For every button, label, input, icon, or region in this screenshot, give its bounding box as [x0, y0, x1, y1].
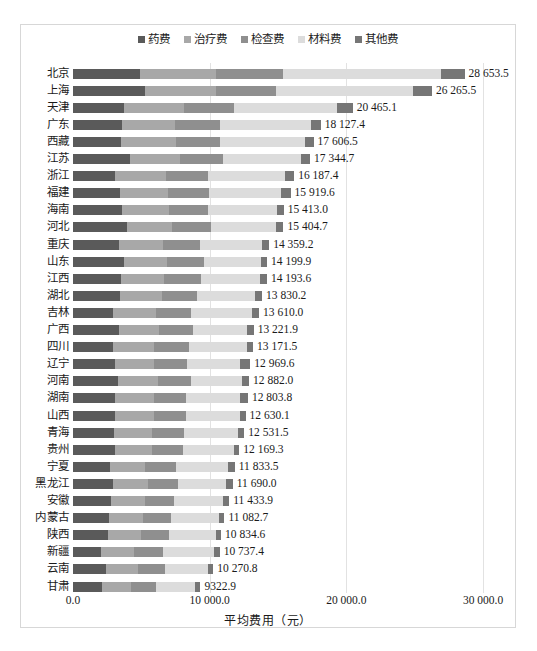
legend-item-1[interactable]: 药费 — [138, 34, 170, 46]
bar-value-label: 28 653.5 — [465, 68, 509, 80]
stacked-bar[interactable] — [73, 120, 321, 130]
bar-row[interactable]: 重庆14 359.2 — [21, 236, 515, 253]
bar-row[interactable]: 青海12 531.5 — [21, 424, 515, 441]
legend-item-5[interactable]: 其他费 — [355, 34, 398, 46]
stacked-bar[interactable] — [73, 496, 229, 506]
bar-row[interactable]: 湖南12 803.8 — [21, 390, 515, 407]
legend-item-4[interactable]: 材料费 — [298, 34, 341, 46]
bar-segment — [152, 428, 184, 438]
bar-segment — [305, 137, 314, 147]
bar-row[interactable]: 广西13 221.9 — [21, 322, 515, 339]
bar-segment — [73, 445, 115, 455]
stacked-bar[interactable] — [73, 222, 284, 232]
legend-item-2[interactable]: 治疗费 — [184, 34, 227, 46]
bar-row[interactable]: 内蒙古11 082.7 — [21, 510, 515, 527]
bar-segment — [141, 530, 169, 540]
stacked-bar[interactable] — [73, 325, 254, 335]
bar-segment — [115, 393, 154, 403]
stacked-bar[interactable] — [73, 291, 262, 301]
bar-row[interactable]: 四川13 171.5 — [21, 339, 515, 356]
stacked-bar[interactable] — [73, 257, 267, 267]
stacked-bar[interactable] — [73, 274, 267, 284]
bar-segment — [208, 205, 276, 215]
bar-row[interactable]: 山东14 199.9 — [21, 253, 515, 270]
category-label: 宁夏 — [21, 461, 69, 473]
bar-segment — [73, 530, 108, 540]
category-label: 江西 — [21, 273, 69, 285]
category-label: 贵州 — [21, 444, 69, 456]
bar-row[interactable]: 河南12 882.0 — [21, 373, 515, 390]
bar-segment — [143, 513, 172, 523]
bar-row[interactable]: 广东18 127.4 — [21, 116, 515, 133]
bar-row[interactable]: 西藏17 606.5 — [21, 133, 515, 150]
stacked-bar[interactable] — [73, 513, 224, 523]
stacked-bar[interactable] — [73, 530, 221, 540]
bar-row[interactable]: 福建15 919.6 — [21, 185, 515, 202]
bar-segment — [228, 462, 235, 472]
legend-swatch-icon — [298, 36, 305, 43]
bar-segment — [73, 325, 119, 335]
bar-segment — [156, 308, 192, 318]
bar-value-label: 17 606.5 — [314, 136, 358, 148]
stacked-bar[interactable] — [73, 188, 291, 198]
bar-segment — [166, 171, 208, 181]
stacked-bar[interactable] — [73, 376, 249, 386]
bar-row[interactable]: 贵州12 169.3 — [21, 441, 515, 458]
stacked-bar[interactable] — [73, 479, 233, 489]
stacked-bar[interactable] — [73, 308, 259, 318]
bar-row[interactable]: 陕西10 834.6 — [21, 527, 515, 544]
stacked-bar[interactable] — [73, 342, 253, 352]
bar-value-label: 13 221.9 — [254, 324, 298, 336]
stacked-bar[interactable] — [73, 547, 220, 557]
bar-row[interactable]: 山西12 630.1 — [21, 407, 515, 424]
bar-row[interactable]: 湖北13 830.2 — [21, 287, 515, 304]
bar-segment — [73, 564, 106, 574]
bar-segment — [73, 205, 122, 215]
bar-segment — [73, 222, 127, 232]
stacked-bar[interactable] — [73, 359, 250, 369]
stacked-bar[interactable] — [73, 428, 244, 438]
bar-row[interactable]: 江苏17 344.7 — [21, 151, 515, 168]
bar-segment — [73, 393, 115, 403]
stacked-bar[interactable] — [73, 103, 353, 113]
stacked-bar[interactable] — [73, 154, 310, 164]
bar-segment — [311, 120, 321, 130]
bar-row[interactable]: 浙江16 187.4 — [21, 168, 515, 185]
stacked-bar[interactable] — [73, 69, 465, 79]
bar-row[interactable]: 辽宁12 969.6 — [21, 356, 515, 373]
stacked-bar[interactable] — [73, 240, 269, 250]
bar-segment — [145, 86, 216, 96]
bar-value-label: 13 610.0 — [259, 307, 303, 319]
legend-item-3[interactable]: 检查费 — [241, 34, 284, 46]
bar-row[interactable]: 云南10 270.8 — [21, 561, 515, 578]
bar-row[interactable]: 海南15 413.0 — [21, 202, 515, 219]
bar-segment — [169, 530, 216, 540]
bar-row[interactable]: 上海26 265.5 — [21, 82, 515, 99]
bar-row[interactable]: 北京28 653.5 — [21, 65, 515, 82]
bar-row[interactable]: 甘肃9322.9 — [21, 578, 515, 595]
stacked-bar[interactable] — [73, 393, 248, 403]
stacked-bar[interactable] — [73, 86, 432, 96]
bar-segment — [285, 171, 294, 181]
bar-value-label: 11 833.5 — [235, 461, 279, 473]
stacked-bar[interactable] — [73, 205, 284, 215]
stacked-bar[interactable] — [73, 171, 294, 181]
bar-row[interactable]: 新疆10 737.4 — [21, 544, 515, 561]
category-label: 四川 — [21, 341, 69, 353]
stacked-bar[interactable] — [73, 462, 235, 472]
bar-row[interactable]: 宁夏11 833.5 — [21, 458, 515, 475]
bar-row[interactable]: 天津20 465.1 — [21, 99, 515, 116]
stacked-bar[interactable] — [73, 445, 239, 455]
bar-segment — [184, 103, 233, 113]
bar-row[interactable]: 江西14 193.6 — [21, 270, 515, 287]
stacked-bar[interactable] — [73, 411, 246, 421]
bar-row[interactable]: 黑龙江11 690.0 — [21, 475, 515, 492]
bar-row[interactable]: 吉林13 610.0 — [21, 304, 515, 321]
stacked-bar[interactable] — [73, 564, 213, 574]
legend-label: 材料费 — [308, 34, 341, 46]
bar-row[interactable]: 安徽11 433.9 — [21, 493, 515, 510]
bar-segment — [240, 393, 248, 403]
bar-row[interactable]: 河北15 404.7 — [21, 219, 515, 236]
stacked-bar[interactable] — [73, 137, 314, 147]
stacked-bar[interactable] — [73, 582, 200, 592]
